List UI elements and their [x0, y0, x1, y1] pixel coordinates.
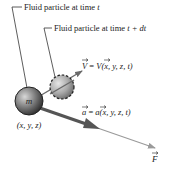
- mass-label: m: [26, 96, 33, 106]
- svg-text:V = V(x, y, z, t): V = V(x, y, z, t): [82, 61, 133, 71]
- leader-line-particle-tdt: [44, 28, 55, 77]
- acceleration-equation: a = a(x, y, z, t): [82, 106, 131, 118]
- position-label: (x, y, z): [17, 120, 42, 130]
- svg-text:a = a(x, y, z, t): a = a(x, y, z, t): [82, 107, 131, 117]
- leader-line-particle-t: [12, 7, 27, 88]
- force-label: F: [151, 154, 158, 164]
- label-particle-t: Fluid particle at time t: [24, 2, 100, 12]
- label-particle-t-dt: Fluid particle at time t + dt: [54, 23, 147, 33]
- force-label-group: F: [151, 152, 158, 165]
- acceleration-arrowhead: [83, 118, 100, 129]
- fluid-particle-diagram: m Fluid particle at time t Fluid particl…: [0, 0, 169, 174]
- velocity-equation: V = V(x, y, z, t): [82, 59, 133, 72]
